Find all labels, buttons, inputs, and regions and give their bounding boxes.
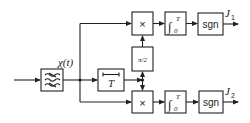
sgn-bottom-label: sgn [203, 97, 219, 108]
output-bottom-label: J 2 [225, 85, 235, 99]
output-top-label: J 1 [225, 7, 235, 21]
svg-text:1: 1 [231, 14, 235, 21]
multiplier-top-label: × [139, 18, 145, 30]
input-signal-label: χ(t) [57, 56, 74, 69]
multiplier-bottom-label: × [139, 97, 145, 109]
svg-text:2: 2 [231, 92, 235, 99]
svg-text:0: 0 [174, 27, 178, 35]
phase-shift-label: π/2 [138, 56, 147, 64]
svg-text:0: 0 [174, 105, 178, 113]
junction-dot [78, 78, 81, 81]
sgn-top-label: sgn [202, 19, 218, 30]
junction-dot-delay [141, 78, 144, 81]
delay-label: T [108, 77, 115, 89]
block-diagram: χ(t) T × × π/2 ∫ T 0 ∫ T 0 sgn sgn J 1 J… [0, 0, 250, 123]
